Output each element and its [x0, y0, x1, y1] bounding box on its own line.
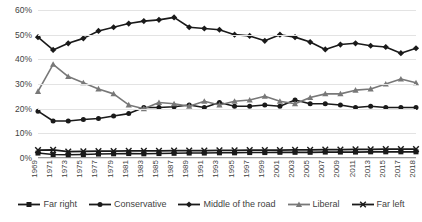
x-axis-tick-label: 2018 [408, 160, 417, 178]
gridline [38, 133, 416, 134]
data-point [338, 102, 343, 107]
x-axis-tick-label: 1993 [211, 160, 220, 178]
y-axis-tick-label: 50% [0, 30, 32, 40]
data-point [201, 25, 207, 31]
x-marker-icon [351, 199, 375, 210]
data-point [111, 114, 116, 119]
legend-item-far-right[interactable]: Far right [17, 199, 77, 210]
data-point [383, 44, 389, 50]
x-axis-tick-label: 1975 [75, 160, 84, 178]
x-axis-tick-label: 2003 [287, 160, 296, 178]
y-axis-tick-label: 20% [0, 104, 32, 114]
gridline [38, 10, 416, 11]
y-axis-tick-label: 60% [0, 5, 32, 15]
data-point [262, 102, 267, 107]
series-conservative [36, 98, 419, 124]
data-point [337, 41, 343, 47]
circle-marker-icon [88, 199, 112, 210]
data-point [50, 61, 56, 67]
gridline [38, 84, 416, 85]
data-point [95, 28, 101, 34]
x-axis-tick-label: 1981 [120, 160, 129, 178]
data-point [96, 116, 101, 121]
legend-label: Middle of the road [203, 200, 275, 209]
legend-label: Far left [377, 200, 405, 209]
data-point [262, 93, 268, 99]
x-axis-tick-label: 1991 [196, 160, 205, 178]
chart-legend: Far rightConservativeMiddle of the roadL… [0, 196, 422, 212]
legend-item-middle-of-the-road[interactable]: Middle of the road [177, 199, 275, 210]
x-axis-tick-label: 1973 [60, 160, 69, 178]
data-point [368, 43, 374, 49]
legend-label: Conservative [114, 200, 167, 209]
x-axis: 1969197119731975197719791981198319851987… [38, 160, 416, 192]
data-point [51, 119, 56, 124]
data-point [51, 152, 56, 157]
data-point [398, 50, 404, 56]
data-point [262, 38, 268, 44]
line-chart: 0%10%20%30%40%50%60% 1969197119731975197… [0, 0, 422, 222]
legend-label: Liberal [313, 200, 340, 209]
data-point [201, 98, 207, 104]
data-point [308, 101, 313, 106]
data-point [65, 40, 71, 46]
x-axis-tick-label: 2005 [302, 160, 311, 178]
data-point [216, 27, 222, 33]
data-point [307, 39, 313, 45]
square-marker-icon [17, 199, 41, 210]
x-axis-tick-label: 2017 [392, 160, 401, 178]
x-axis-tick-label: 1997 [241, 160, 250, 178]
data-point [323, 101, 328, 106]
x-axis-tick-label: 1985 [150, 160, 159, 178]
diamond-marker-icon [177, 199, 201, 210]
gridline [38, 35, 416, 36]
x-axis-tick-label: 2009 [332, 160, 341, 178]
x-axis-tick-label: 2001 [271, 160, 280, 178]
x-axis-tick-label: 2011 [347, 160, 356, 177]
x-axis-tick-label: 2007 [317, 160, 326, 178]
x-axis-tick-label: 1983 [135, 160, 144, 178]
x-axis-tick-label: 1971 [45, 160, 54, 178]
legend-item-liberal[interactable]: Liberal [287, 199, 340, 210]
legend-label: Far right [43, 200, 77, 209]
data-point [126, 111, 131, 116]
data-point [322, 46, 328, 52]
data-point [141, 18, 147, 24]
legend-item-conservative[interactable]: Conservative [88, 199, 167, 210]
data-point [398, 76, 404, 82]
y-axis-tick-label: 10% [0, 128, 32, 138]
data-point [413, 45, 419, 51]
x-axis-tick-label: 1995 [226, 160, 235, 178]
gridline [38, 59, 416, 60]
x-axis-tick-label: 1987 [166, 160, 175, 178]
data-point [66, 119, 71, 124]
data-point [81, 117, 86, 122]
gridline [38, 109, 416, 110]
legend-item-far-left[interactable]: Far left [351, 199, 405, 210]
data-point [156, 17, 162, 23]
data-point [352, 40, 358, 46]
y-axis-tick-label: 0% [0, 153, 32, 163]
plot-area [38, 10, 416, 158]
x-axis-tick-label: 1979 [105, 160, 114, 178]
x-axis-tick-label: 1999 [256, 160, 265, 178]
data-point [80, 35, 86, 41]
x-axis-tick-label: 1977 [90, 160, 99, 178]
x-axis-tick-label: 1989 [181, 160, 190, 178]
y-axis: 0%10%20%30%40%50%60% [0, 10, 34, 158]
x-axis-tick-label: 2013 [362, 160, 371, 178]
data-point [111, 24, 117, 30]
series-liberal [35, 61, 419, 111]
triangle-marker-icon [287, 199, 311, 210]
data-point [126, 20, 132, 26]
x-axis-tick-label: 2015 [377, 160, 386, 178]
y-axis-tick-label: 40% [0, 54, 32, 64]
x-axis-tick-label: 1969 [30, 160, 39, 178]
y-axis-tick-label: 30% [0, 79, 32, 89]
